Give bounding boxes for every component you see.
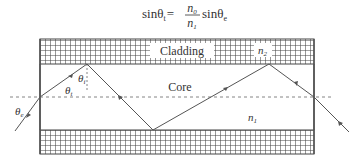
- svg-text:n1: n1: [187, 16, 197, 31]
- n1-label: n1: [248, 111, 257, 125]
- svg-text:n0: n0: [187, 1, 197, 16]
- core-label: Core: [168, 80, 191, 94]
- svg-text:sinθt=: sinθt=: [142, 6, 174, 23]
- lower-cladding: [40, 130, 314, 154]
- cladding-label: Cladding: [160, 44, 204, 58]
- theta-i-label: θi: [78, 72, 85, 86]
- optical-fiber-diagram: sinθt= n0 n1 sinθe Cladding n2 Core n1: [0, 0, 361, 168]
- snell-formula: sinθt= n0 n1 sinθe: [142, 1, 227, 31]
- theta-e-label: θe: [15, 105, 24, 119]
- light-ray: [15, 64, 349, 132]
- svg-text:sinθe: sinθe: [202, 6, 227, 23]
- theta-t-label: θt: [65, 84, 73, 98]
